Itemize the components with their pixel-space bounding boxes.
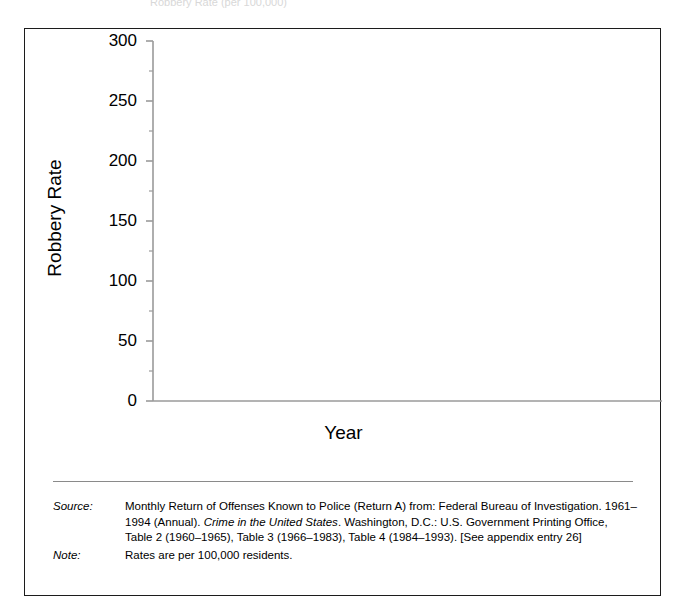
note-text: Rates are per 100,000 residents. [125,548,638,564]
y-tick-label-100: 100 [85,272,137,289]
y-axis-title: Robbery Rate [44,108,66,328]
y-tick-label-200: 200 [85,152,137,169]
source-row: Source: Monthly Return of Offenses Known… [53,499,638,546]
scan-artifact-text: Robbery Rate (per 100,000) [150,0,450,10]
figure-frame: Robbery Rate Year 050100150200250300 606… [24,28,661,596]
y-tick-label-300: 300 [85,32,137,49]
note-label: Note: [53,548,125,564]
source-line-4: (1984–1993). [See appendix entry 26] [389,531,582,543]
footnote-block: Source: Monthly Return of Offenses Known… [53,499,638,565]
figure-container: Robbery Rate (per 100,000) Robbery Rate … [0,0,685,611]
source-line-2c: . Washington, D.C.: U.S. [338,516,463,528]
footnote-divider [53,481,633,482]
source-line-1: Monthly Return of Offenses Known to Poli… [125,500,531,512]
source-text: Monthly Return of Offenses Known to Poli… [125,499,638,546]
y-tick-label-0: 0 [85,392,137,409]
x-axis-title: Year [25,422,662,444]
source-label: Source: [53,499,125,515]
source-publication-title: Crime in the United States [204,516,338,528]
y-tick-label-150: 150 [85,212,137,229]
note-row: Note: Rates are per 100,000 residents. [53,548,638,564]
plot-area: Robbery Rate Year 050100150200250300 606… [25,29,662,469]
y-tick-label-50: 50 [85,332,137,349]
y-tick-label-250: 250 [85,92,137,109]
